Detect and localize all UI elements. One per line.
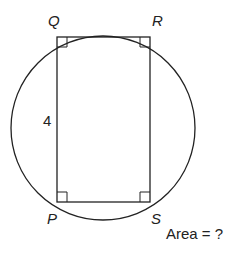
diagram-canvas [0, 0, 229, 256]
right-angle-markers [57, 37, 150, 202]
side-length-label: 4 [43, 112, 51, 129]
vertex-label-p: P [47, 210, 57, 227]
vertex-label-s: S [151, 210, 161, 227]
rectangle-pqrs [57, 37, 150, 202]
circumscribed-circle [11, 36, 195, 220]
vertex-label-q: Q [48, 12, 60, 29]
vertex-label-r: R [152, 12, 163, 29]
area-question: Area = ? [166, 225, 223, 242]
